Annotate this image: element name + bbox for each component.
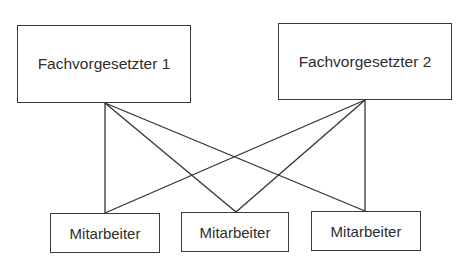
employee-box-2: Mitarbeiter: [181, 212, 289, 252]
line-sup1-emp2: [105, 103, 236, 212]
supervisor-label-2: Fachvorgesetzter 2: [299, 53, 432, 71]
supervisor-box-1: Fachvorgesetzter 1: [17, 25, 191, 103]
employee-box-1: Mitarbeiter: [50, 213, 160, 253]
line-sup2-emp1: [105, 100, 365, 213]
employee-label-2: Mitarbeiter: [200, 224, 271, 241]
supervisor-label-1: Fachvorgesetzter 1: [38, 55, 171, 73]
supervisor-box-2: Fachvorgesetzter 2: [278, 23, 452, 100]
employee-label-1: Mitarbeiter: [70, 225, 141, 242]
line-sup2-emp2: [236, 100, 365, 212]
employee-label-3: Mitarbeiter: [331, 223, 402, 240]
employee-box-3: Mitarbeiter: [311, 211, 421, 251]
